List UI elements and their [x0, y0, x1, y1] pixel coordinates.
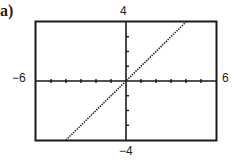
axes [36, 22, 216, 140]
plot-area [0, 0, 234, 161]
